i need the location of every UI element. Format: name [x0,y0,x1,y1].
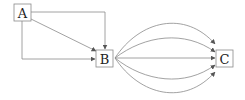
node-b-label: B [100,52,110,67]
edge-a-b-bottom [22,21,95,59]
edges-b-to-c [115,23,215,92]
edge-a-b-top [31,12,105,49]
node-c-label: C [220,52,230,67]
diagram-canvas: A B C [0,0,245,100]
node-a: A [14,4,31,21]
node-c: C [216,50,233,67]
node-a-label: A [17,6,28,21]
edge-a-b-diagonal [31,19,96,51]
edge-b-c-arc-low-2 [115,58,215,93]
node-b: B [96,50,113,67]
edges-a-to-b [22,12,105,59]
edge-b-c-arc-high-2 [115,23,215,58]
